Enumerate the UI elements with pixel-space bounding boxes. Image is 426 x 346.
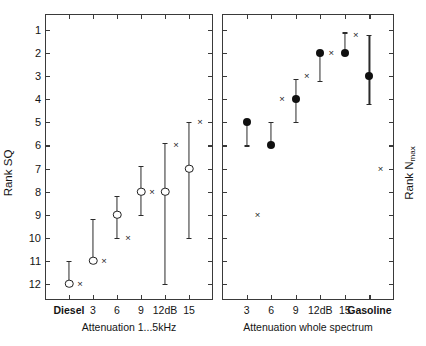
data-point-cross: × — [173, 141, 179, 151]
y-tick-10-right — [389, 238, 394, 239]
error-bar-cap — [367, 104, 372, 105]
x-tick-label-12db: 12dB — [308, 305, 333, 316]
y-tick-1-right — [389, 30, 394, 31]
y-tick-label-2: 2 — [35, 48, 41, 59]
y-tick-9-left — [222, 215, 227, 216]
x-tick-3-bottom — [247, 295, 248, 300]
x-tick-15-top — [189, 14, 190, 19]
x-tick-9-bottom — [296, 295, 297, 300]
data-point-open-circle — [137, 187, 146, 196]
y-tick-2-left — [45, 53, 50, 54]
y-tick-label-4: 4 — [35, 94, 41, 105]
x-tick-label-3: 3 — [90, 305, 96, 316]
x-tick-9-top — [141, 14, 142, 19]
data-point-cross: × — [77, 279, 83, 289]
y-tick-9-right — [389, 215, 394, 216]
error-bar-cap — [244, 145, 249, 146]
x-tick-diesel-top — [69, 14, 70, 19]
y-tick-label-9: 9 — [35, 209, 41, 220]
error-bar-cap — [139, 166, 144, 167]
x-tick-3-bottom — [93, 295, 94, 300]
y-tick-4-left — [222, 99, 227, 100]
x-tick-label-6: 6 — [268, 305, 274, 316]
x-tick-6-bottom — [117, 295, 118, 300]
data-point-open-circle — [89, 257, 98, 266]
y-tick-6-right — [389, 145, 394, 146]
y-tick-10-left — [45, 238, 50, 239]
y-tick-6-left — [222, 145, 227, 146]
y-tick-11-left — [222, 261, 227, 262]
x-tick-12db-bottom — [320, 295, 321, 300]
x-tick-label-diesel: Diesel — [54, 305, 85, 316]
error-bar — [369, 35, 370, 104]
y-tick-6-right — [208, 145, 213, 146]
y-tick-11-right — [208, 261, 213, 262]
y-tick-4-right — [389, 99, 394, 100]
error-bar-cap — [115, 196, 120, 197]
error-bar-cap — [293, 122, 298, 123]
x-tick-15-bottom — [345, 295, 346, 300]
y-tick-label-5: 5 — [35, 117, 41, 128]
y-tick-2-left — [222, 53, 227, 54]
x-tick-label-3: 3 — [244, 305, 250, 316]
error-bar-cap — [115, 238, 120, 239]
data-point-open-circle — [161, 187, 170, 196]
data-point-cross: × — [125, 233, 131, 243]
x-tick-3-top — [93, 14, 94, 19]
x-tick-12db-bottom — [165, 295, 166, 300]
y-tick-3-right — [208, 76, 213, 77]
error-bar-cap — [67, 261, 72, 262]
left-y-axis-title: Rank SQ — [2, 150, 14, 197]
data-point-cross: × — [304, 72, 310, 82]
y-tick-label-3: 3 — [35, 71, 41, 82]
x-tick-15-bottom — [189, 295, 190, 300]
y-tick-3-left — [45, 76, 50, 77]
x-tick-9-top — [296, 14, 297, 19]
right-y-axis-title: Rank Nmax — [403, 146, 417, 199]
data-point-cross: × — [378, 164, 384, 174]
data-point-filled-circle — [243, 118, 251, 126]
error-bar — [92, 219, 93, 261]
data-point-filled-circle — [365, 72, 373, 80]
data-point-filled-circle — [292, 95, 300, 103]
y-tick-10-left — [222, 238, 227, 239]
y-tick-label-12: 12 — [29, 278, 41, 289]
y-tick-1-left — [222, 30, 227, 31]
y-tick-5-right — [389, 122, 394, 123]
x-tick-label-12db: 12dB — [153, 305, 178, 316]
y-tick-label-6: 6 — [35, 140, 41, 151]
error-bar — [164, 143, 165, 284]
right-x-axis-title: Attenuation whole spectrum — [243, 321, 373, 333]
y-tick-12-left — [45, 284, 50, 285]
y-tick-4-left — [45, 99, 50, 100]
data-point-cross: × — [255, 210, 261, 220]
y-tick-1-right — [208, 30, 213, 31]
panel-right: 36912dB15Gasoline ×××××× Attenuation who… — [222, 14, 394, 300]
error-bar-cap — [91, 219, 96, 220]
x-tick-diesel-bottom — [69, 295, 70, 300]
x-tick-6-top — [271, 14, 272, 19]
error-bar-cap — [318, 81, 323, 82]
error-bar-cap — [269, 122, 274, 123]
y-tick-1-left — [45, 30, 50, 31]
y-tick-7-right — [389, 169, 394, 170]
data-point-open-circle — [113, 210, 122, 219]
y-tick-7-left — [222, 169, 227, 170]
error-bar-cap — [163, 143, 168, 144]
error-bar-cap — [342, 32, 347, 33]
y-tick-2-right — [208, 53, 213, 54]
y-tick-12-right — [389, 284, 394, 285]
y-tick-8-left — [45, 192, 50, 193]
y-tick-label-7: 7 — [35, 163, 41, 174]
error-bar-cap — [163, 284, 168, 285]
panel-left: 123456789101112 Diesel36912dB15 ×××××× A… — [45, 14, 213, 300]
x-tick-3-top — [247, 14, 248, 19]
y-tick-9-right — [208, 215, 213, 216]
data-point-cross: × — [279, 95, 285, 105]
y-tick-label-8: 8 — [35, 186, 41, 197]
x-tick-9-bottom — [141, 295, 142, 300]
error-bar — [188, 122, 189, 237]
y-tick-4-right — [208, 99, 213, 100]
x-tick-12db-top — [165, 14, 166, 19]
y-tick-5-left — [45, 122, 50, 123]
